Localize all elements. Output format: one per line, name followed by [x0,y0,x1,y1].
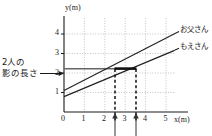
legend-leaders [174,31,179,50]
x-axis-title: x(m) [174,116,190,124]
x-tick-label-3: 3 [123,115,127,123]
y-tick-label-1: 1 [55,88,59,96]
annotation-leader-arrow [40,71,64,76]
series-line-moe [64,51,174,97]
y-tick-label-2: 2 [55,69,59,77]
series-label-father: お父さん [180,26,208,34]
x-tick-label-1: 1 [82,115,86,123]
legend-leader-moe [174,48,179,50]
axes [64,16,188,112]
x-tick-label-5: 5 [164,115,168,123]
shadow-length-annotation-line1: 2人の [2,57,38,68]
shadow-length-annotation-line2: 影の長さ [2,68,38,79]
shadow-length-graph-figure: y(m) x(m) 1 2 3 4 0 1 2 3 4 5 2人の 影の長さ お… [0,0,212,136]
y-axis-title: y(m) [65,4,81,12]
x-tick-label-0: 0 [61,115,65,123]
y-tick-label-3: 3 [55,49,59,57]
x-marker-arrow-1 [112,113,118,136]
legend-leader-father [174,31,179,34]
series-line-father [64,34,174,91]
shadow-length-annotation: 2人の 影の長さ [2,57,38,80]
series-label-moe: もえさん [180,43,208,51]
y-tick-label-4: 4 [55,29,59,37]
data-series [64,34,174,97]
x-tick-label-4: 4 [143,115,147,123]
x-tick-label-2: 2 [102,115,106,123]
x-marker-arrow-2 [133,113,139,136]
grid-lines [64,18,176,112]
